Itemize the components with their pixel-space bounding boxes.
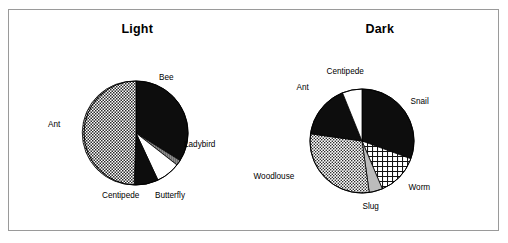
label-snail: Snail	[411, 98, 429, 106]
label-centipede-dark: Centipede	[327, 68, 364, 76]
label-woodlouse: Woodlouse	[254, 173, 295, 181]
figure-frame: Light	[8, 9, 499, 231]
slice-woodlouse	[309, 134, 368, 193]
label-worm: Worm	[409, 184, 431, 192]
pie-dark-svg	[297, 76, 427, 206]
label-butterfly: Butterfly	[155, 192, 185, 200]
figure-canvas: Light	[0, 0, 508, 243]
slice-ant	[82, 81, 136, 185]
pie-light-svg	[71, 68, 201, 198]
label-ladybird: Ladybird	[184, 141, 215, 149]
panel-dark: Dark	[254, 10, 499, 230]
pie-chart-dark: Centipede Ant Snail Worm Slug Woodlouse	[297, 76, 427, 206]
pie-chart-light: Bee Ladybird Butterfly Centipede Ant	[71, 68, 201, 198]
chart-title-dark: Dark	[258, 22, 503, 36]
panel-light: Light	[9, 10, 254, 230]
label-slug: Slug	[363, 203, 379, 211]
chart-title-light: Light	[15, 22, 260, 36]
label-ant: Ant	[48, 121, 60, 129]
label-centipede: Centipede	[102, 192, 139, 200]
page-bottom-edge	[0, 238, 508, 243]
label-ant-dark: Ant	[297, 84, 309, 92]
label-bee: Bee	[159, 74, 174, 82]
